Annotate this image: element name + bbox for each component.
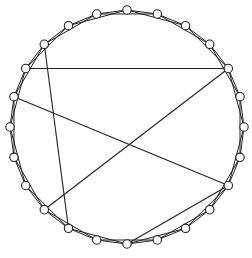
graph-node xyxy=(10,153,18,161)
graph-node xyxy=(224,181,232,189)
graph-node xyxy=(153,10,161,18)
graph-node xyxy=(93,10,101,18)
graph-node xyxy=(153,236,161,244)
graph-node xyxy=(181,224,189,232)
chord-edge xyxy=(14,97,228,186)
graph-node xyxy=(236,93,244,101)
graph-node xyxy=(40,206,48,214)
graph-node xyxy=(64,224,72,232)
chord-edge xyxy=(127,186,228,245)
graph-diagram xyxy=(0,0,252,258)
graph-node xyxy=(206,40,214,48)
chord-edge xyxy=(44,69,228,210)
graph-node xyxy=(123,6,131,14)
graph-node xyxy=(40,40,48,48)
graph-node xyxy=(21,181,29,189)
graph-node xyxy=(21,64,29,72)
graph-node xyxy=(93,236,101,244)
graph-node xyxy=(181,21,189,29)
nodes-layer xyxy=(6,6,248,248)
graph-node xyxy=(240,123,248,131)
graph-node xyxy=(123,240,131,248)
graph-node xyxy=(6,123,14,131)
graph-node xyxy=(224,64,232,72)
graph-node xyxy=(236,153,244,161)
graph-node xyxy=(10,93,18,101)
graph-node xyxy=(64,21,72,29)
graph-node xyxy=(206,206,214,214)
